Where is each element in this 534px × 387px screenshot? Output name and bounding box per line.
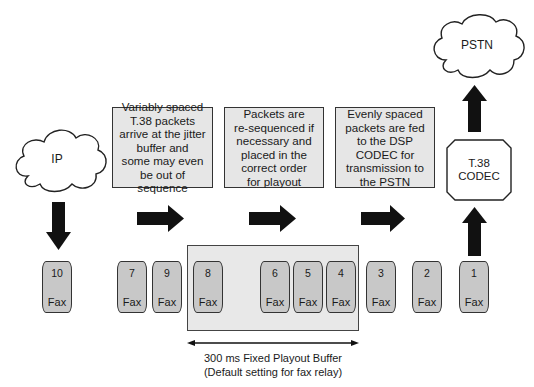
step-text-line: re-sequenced if	[234, 121, 314, 135]
packet-number: 10	[43, 267, 71, 279]
packet-label: Fax	[194, 296, 222, 308]
codec-box: T.38 CODEC	[447, 140, 511, 200]
packet-3: 3 Fax	[366, 261, 396, 313]
right-arrow-icon	[137, 205, 184, 232]
step-text-line: CODEC for	[345, 148, 424, 162]
step-text-line: some may even	[119, 154, 205, 168]
step-text-line: the PSTN	[345, 175, 424, 189]
packet-10: 10 Fax	[42, 261, 72, 313]
up-arrow-icon	[462, 85, 487, 132]
step-box-arrive: Variably spaced T.38 packets arrive at t…	[112, 107, 213, 188]
packet-number: 2	[413, 267, 441, 279]
step-text-line: to the DSP	[345, 134, 424, 148]
packet-number: 6	[261, 267, 289, 279]
packet-1: 1 Fax	[459, 261, 489, 313]
buffer-caption-line-2: (Default setting for fax relay)	[190, 366, 356, 378]
packet-9: 9 Fax	[152, 261, 182, 313]
packet-label: Fax	[460, 296, 488, 308]
double-arrow-icon	[187, 340, 359, 346]
buffer-caption-line-1: 300 ms Fixed Playout Buffer	[190, 352, 356, 364]
packet-label: Fax	[367, 296, 395, 308]
step-text-line: Packets are	[234, 107, 314, 121]
packet-label: Fax	[118, 296, 146, 308]
right-arrow-icon	[249, 205, 296, 232]
packet-number: 7	[118, 267, 146, 279]
packet-label: Fax	[153, 296, 181, 308]
packet-4: 4 Fax	[326, 261, 356, 313]
step-text-line: necessary and	[234, 134, 314, 148]
step-text-line: placed in the	[234, 148, 314, 162]
step-text-line: T.38 packets	[119, 114, 205, 128]
ip-cloud-label: IP	[37, 152, 77, 166]
step-text-line: be out of	[119, 168, 205, 182]
step-text-line: Evenly spaced	[345, 107, 424, 121]
step-text-line: packets are fed	[345, 121, 424, 135]
packet-number: 3	[367, 267, 395, 279]
packet-label: Fax	[327, 296, 355, 308]
step-box-resequence: Packets are re-sequenced if necessary an…	[224, 107, 324, 188]
packet-label: Fax	[294, 296, 322, 308]
step-text-line: sequence	[119, 181, 205, 195]
step-text-line: for playout	[234, 175, 314, 189]
up-arrow-icon	[462, 207, 487, 256]
right-arrow-icon	[361, 205, 405, 232]
packet-number: 1	[460, 267, 488, 279]
codec-line-1: T.38	[458, 157, 500, 170]
step-text-line: correct order	[234, 161, 314, 175]
packet-number: 4	[327, 267, 355, 279]
packet-number: 8	[194, 267, 222, 279]
packet-5: 5 Fax	[293, 261, 323, 313]
packet-label: Fax	[413, 296, 441, 308]
step-text-line: buffer and	[119, 141, 205, 155]
packet-label: Fax	[43, 296, 71, 308]
pstn-cloud-label: PSTN	[452, 38, 502, 52]
packet-6: 6 Fax	[260, 261, 290, 313]
packet-7: 7 Fax	[117, 261, 147, 313]
step-text-line: arrive at the jitter	[119, 127, 205, 141]
down-arrow-icon	[46, 202, 71, 250]
packet-8: 8 Fax	[193, 261, 223, 313]
codec-line-2: CODEC	[458, 170, 500, 183]
step-text-line: Variably spaced	[119, 100, 205, 114]
step-text-line: transmission to	[345, 161, 424, 175]
packet-number: 9	[153, 267, 181, 279]
packet-2: 2 Fax	[412, 261, 442, 313]
step-box-playout: Evenly spaced packets are fed to the DSP…	[335, 107, 435, 188]
packet-number: 5	[294, 267, 322, 279]
packet-label: Fax	[261, 296, 289, 308]
